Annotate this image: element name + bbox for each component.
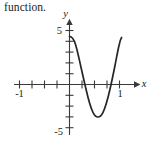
y-axis-arrow [66,19,72,25]
y-max-tick-label: 5 [57,25,62,36]
curve-path [70,36,122,117]
function-graph: y x 5 -5 -1 1 [0,0,151,145]
x-axis-arrow [134,81,141,87]
x-axis-label: x [141,78,147,89]
y-min-tick-label: -5 [54,126,63,137]
y-axis-label: y [62,8,68,19]
x-min-tick-label: -1 [15,88,24,99]
x-max-tick-label: 1 [117,88,122,99]
